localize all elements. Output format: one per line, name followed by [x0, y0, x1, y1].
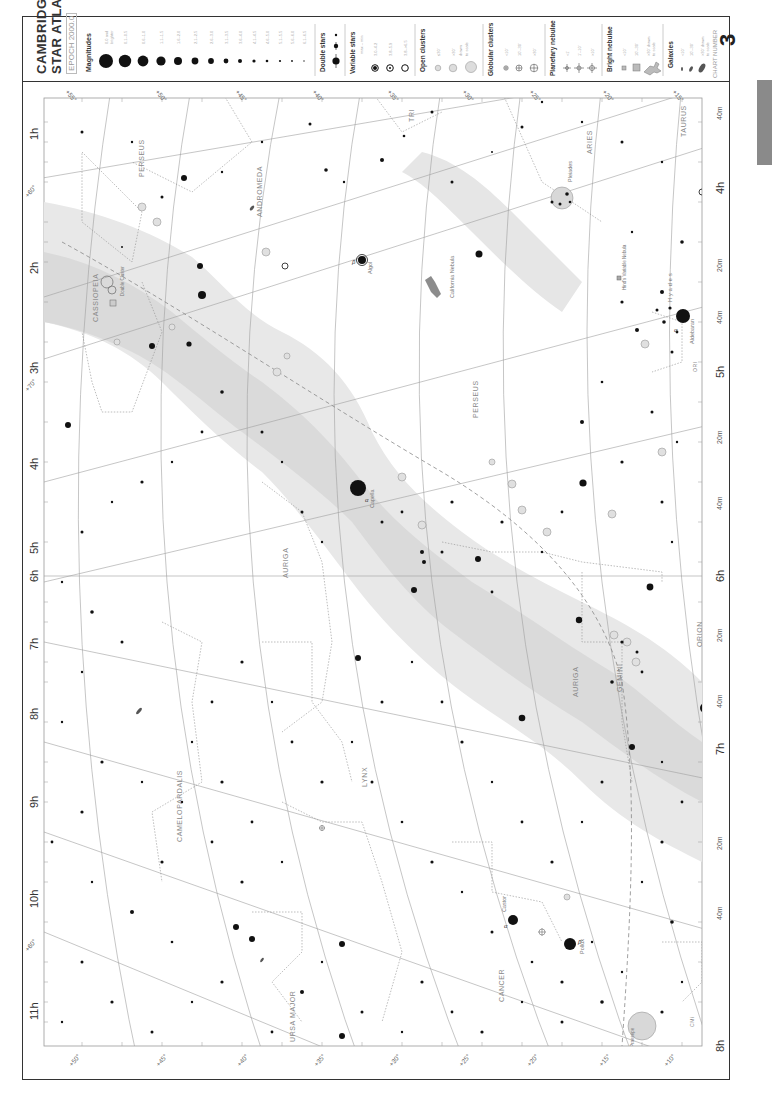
svg-text:3.1–3.5: 3.1–3.5	[224, 30, 229, 44]
magnitude-dots	[99, 54, 305, 68]
svg-text:California Nebula: California Nebula	[449, 255, 455, 298]
svg-text:+50°: +50°	[67, 1052, 81, 1067]
svg-text:8h: 8h	[714, 1040, 726, 1052]
star-chart-svg: CASSIOPEIA PERSEUS ANDROMEDA TRI ARIES T…	[22, 82, 730, 1080]
svg-text:9h: 9h	[28, 796, 40, 808]
chart-number: 3	[715, 34, 741, 46]
svg-text:1h: 1h	[28, 128, 40, 140]
svg-text:3.6–4.0: 3.6–4.0	[238, 30, 243, 44]
svg-text:Globular clusters: Globular clusters	[487, 22, 494, 76]
ra-minute-labels: 40m 20m 40m 20m 40m 20m 40m 20m 40m	[716, 106, 723, 920]
svg-text:Hind's Variable Nebula: Hind's Variable Nebula	[622, 244, 627, 290]
svg-text:<10': <10'	[680, 48, 685, 56]
svg-text:β: β	[577, 939, 582, 945]
svg-text:max – min: max – min	[359, 36, 364, 54]
label-camelopardalis: CAMELOPARDALIS	[176, 770, 183, 842]
svg-text:to scale: to scale	[651, 41, 656, 56]
svg-text:3.0–4.2: 3.0–4.2	[373, 42, 378, 56]
svg-text:4h: 4h	[714, 182, 726, 194]
svg-text:α: α	[674, 327, 678, 333]
label-auriga: AURIGA	[572, 667, 579, 697]
svg-text:6h: 6h	[28, 570, 40, 582]
legend-strip: CAMBRIDGE STAR ATLAS EPOCH 2000.0 Magnit…	[22, 16, 730, 82]
svg-text:+30°: +30°	[387, 1052, 401, 1067]
svg-text:10'–30': 10'–30'	[517, 43, 522, 56]
svg-text:≤30': ≤30'	[436, 48, 441, 56]
svg-text:40m: 40m	[716, 310, 723, 324]
label-lynx: LYNX	[361, 767, 368, 787]
label-taurus: TAURUS	[680, 105, 687, 137]
svg-text:5.6–6.0: 5.6–6.0	[290, 30, 295, 44]
label-orion: ORION	[696, 621, 703, 647]
svg-text:4.1–4.5: 4.1–4.5	[252, 30, 257, 44]
svg-text:40m: 40m	[716, 106, 723, 120]
svg-text:1'–10': 1'–10'	[577, 45, 582, 56]
svg-text:<1': <1'	[565, 50, 570, 56]
svg-text:40m: 40m	[716, 496, 723, 510]
svg-text:10h: 10h	[28, 890, 40, 908]
svg-text:Capella: Capella	[369, 488, 375, 508]
svg-text:20m: 20m	[716, 258, 723, 272]
svg-text:11h: 11h	[28, 1002, 40, 1020]
label-lmi: LMi	[292, 1052, 298, 1062]
star-capella	[350, 480, 366, 496]
svg-text:20m: 20m	[716, 836, 723, 850]
label-perseus-north: PERSEUS	[138, 139, 145, 177]
svg-text:Double Cluster: Double Cluster	[120, 266, 125, 296]
label-gemini: GEMINI	[616, 664, 623, 693]
svg-text:Planetary nebulae: Planetary nebulae	[549, 20, 557, 76]
svg-text:+10°: +10°	[662, 1052, 676, 1067]
svg-text:0.1–0.5: 0.1–0.5	[123, 30, 128, 44]
svg-text:20m: 20m	[716, 628, 723, 642]
label-ori: ORI	[692, 361, 698, 372]
star-aldebaran	[676, 309, 690, 323]
svg-text:>30': >30'	[532, 48, 537, 56]
legend-symbols: 0.0 and brighter 0.1–0.5 0.6–1.0 1.1–1.5…	[22, 16, 730, 82]
svg-text:3h: 3h	[28, 362, 40, 374]
svg-text:Praesepe: Praesepe	[630, 1027, 635, 1047]
svg-text:Algol: Algol	[367, 262, 373, 274]
svg-text:10'–30': 10'–30'	[634, 43, 639, 56]
svg-text:6h: 6h	[714, 570, 726, 582]
label-aries: ARIES	[586, 130, 593, 154]
svg-text:40m: 40m	[716, 694, 723, 708]
svg-text:4h: 4h	[28, 458, 40, 470]
label-auriga-north: AURIGA	[282, 548, 289, 578]
svg-text:Open clusters: Open clusters	[419, 28, 427, 72]
svg-text:drawn: drawn	[458, 45, 463, 56]
star-castor	[508, 915, 518, 925]
svg-text:3.8–>6.5: 3.8–>6.5	[403, 40, 408, 56]
svg-text:+35°: +35°	[312, 1052, 326, 1067]
svg-text:Bright nebulae: Bright nebulae	[606, 26, 614, 72]
svg-text:5h: 5h	[28, 542, 40, 554]
star-map: CASSIOPEIA PERSEUS ANDROMEDA TRI ARIES T…	[22, 82, 730, 1080]
label-cassiopeia: CASSIOPEIA	[92, 274, 99, 322]
svg-text:+15°: +15°	[597, 1052, 611, 1067]
svg-text:to scale: to scale	[705, 41, 710, 56]
svg-text:+70°: +70°	[23, 377, 37, 392]
svg-text:<10': <10'	[504, 48, 509, 56]
svg-text:Double stars: Double stars	[319, 32, 326, 72]
svg-text:brighter: brighter	[109, 30, 114, 44]
svg-text:>10': >10'	[590, 48, 595, 56]
svg-text:Aldebaran: Aldebaran	[689, 319, 695, 344]
label-perseus: PERSEUS	[472, 380, 479, 418]
svg-text:4.6–5.0: 4.6–5.0	[265, 30, 270, 44]
svg-text:Hyades: Hyades	[667, 271, 673, 302]
svg-text:β: β	[351, 259, 356, 265]
svg-text:Variable stars: Variable stars	[349, 31, 356, 74]
svg-text:7h: 7h	[28, 638, 40, 650]
svg-text:+60°: +60°	[23, 937, 37, 952]
svg-text:40m: 40m	[716, 906, 723, 920]
svg-text:2.1–2.5: 2.1–2.5	[193, 30, 198, 44]
ra-labels-left: 1h 2h 3h 4h 5h 6h 7h 8h 9h 10h 11h	[28, 128, 40, 1020]
svg-text:>30': >30'	[451, 48, 456, 56]
svg-text:to scale: to scale	[464, 41, 469, 56]
page-edge-tab	[757, 80, 772, 165]
svg-text:Galaxies: Galaxies	[667, 41, 674, 68]
svg-text:+45°: +45°	[154, 1052, 168, 1067]
svg-text:1.6–2.0: 1.6–2.0	[176, 30, 181, 44]
label-andromeda: ANDROMEDA	[256, 166, 263, 217]
svg-text:1.1–1.5: 1.1–1.5	[159, 30, 164, 44]
svg-text:6.1–6.5: 6.1–6.5	[302, 30, 307, 44]
